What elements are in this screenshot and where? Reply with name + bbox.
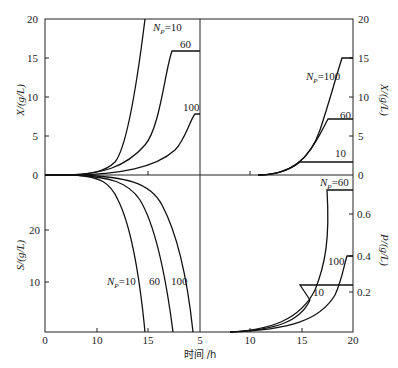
tick-label: 10	[358, 91, 370, 103]
label-100: 100	[183, 101, 200, 113]
y-axis-label: P/(g/L)	[378, 233, 391, 266]
y-axis-label: X/(g/L)	[14, 84, 27, 117]
label-s-60: 60	[149, 275, 161, 287]
tick-label: 10	[92, 334, 104, 346]
right-top-curves: NP=100 60 10	[258, 58, 353, 175]
label-rx-60: 60	[340, 109, 352, 121]
tick-label: 20	[27, 13, 39, 25]
tick-label: 10	[27, 91, 39, 103]
curve-np60	[45, 51, 200, 175]
tick-label: 20	[29, 224, 41, 236]
curve-s-np100	[45, 175, 193, 332]
y-axis-label: X/(g/L)	[378, 83, 391, 116]
tick-label: 5	[197, 334, 203, 346]
tick-label: 15	[358, 52, 370, 64]
right-bottom-curves: NP=60 100 10	[230, 176, 353, 332]
tick-label: 0	[42, 334, 48, 346]
tick-label: 0	[33, 169, 39, 181]
tick-label: 20	[348, 334, 360, 346]
label-rx-10: 10	[335, 147, 347, 159]
label-60: 60	[180, 38, 192, 50]
label-rx-np100: NP=100	[305, 70, 341, 85]
label-p-10: 10	[313, 286, 325, 298]
label-s-np10: NP=10	[106, 275, 136, 290]
tick-label: 10	[29, 276, 41, 288]
left-bottom-curves: NP=10 60 100	[45, 175, 193, 332]
label-s-100: 100	[171, 275, 188, 287]
tick-label: 10	[245, 334, 257, 346]
tick-label: 5	[358, 130, 364, 142]
left-top-yaxis: 0 5 10 15 20 X/(g/L)	[14, 13, 49, 181]
curve-s-np60	[45, 175, 173, 332]
tick-label: 15	[143, 334, 155, 346]
tick-label: 0	[358, 169, 364, 181]
curve-rx-np10	[258, 162, 353, 175]
tick-label: 15	[297, 334, 309, 346]
label-p-100: 100	[328, 255, 345, 267]
x-axis-label: 时间 /h	[184, 348, 217, 360]
curve-s-np10	[45, 175, 145, 332]
label-np10: NP=10	[152, 21, 182, 36]
label-p-np60: NP=60	[319, 176, 349, 191]
tick-label: 0.4	[357, 250, 371, 262]
curve-np10	[45, 19, 145, 175]
tick-label: 20	[358, 13, 370, 25]
tick-label: 15	[27, 52, 39, 64]
right-bottom-yaxis: 0.2 0.4 0.6 P/(g/L)	[349, 208, 391, 298]
four-panel-chart: 0 5 10 15 20 X/(g/L) 10 20 S/(g/L) 0 5 1…	[0, 0, 398, 368]
tick-label: 5	[33, 130, 39, 142]
left-bottom-yaxis: 10 20 S/(g/L)	[14, 224, 49, 288]
tick-label: 0.6	[357, 208, 371, 220]
tick-label: 0.2	[357, 286, 371, 298]
y-axis-label: S/(g/L)	[14, 239, 27, 270]
curve-p-np100	[230, 256, 353, 332]
right-top-yaxis: 0 5 10 15 20 X/(g/L)	[349, 13, 391, 181]
left-top-curves: NP=10 60 100	[45, 19, 200, 175]
